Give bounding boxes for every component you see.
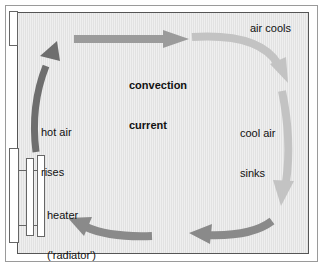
convection-diagram: air cools convection current cool air si… bbox=[0, 0, 325, 269]
label-convection-current: convection current bbox=[129, 52, 187, 159]
label-heater-line1: heater bbox=[47, 209, 96, 222]
label-cool-air-sinks: cool air sinks bbox=[240, 100, 275, 207]
cool-air-sinks-arrow bbox=[273, 91, 294, 206]
label-hot-air-line1: hot air bbox=[41, 126, 72, 139]
label-convection-current-line1: convection bbox=[129, 79, 187, 92]
label-cool-air-line1: cool air bbox=[240, 127, 275, 140]
label-heater-line2: ('radiator') bbox=[47, 249, 96, 262]
label-heater: heater ('radiator') bbox=[47, 182, 96, 269]
label-air-cools: air cools bbox=[250, 22, 291, 35]
label-cool-air-line2: sinks bbox=[240, 167, 275, 180]
label-convection-current-line2: current bbox=[129, 119, 187, 132]
air-cools-arrow bbox=[192, 36, 288, 83]
bottom-right-arrow bbox=[189, 221, 272, 244]
label-hot-air-line2: rises bbox=[41, 166, 72, 179]
label-air-cools-text: air cools bbox=[250, 22, 291, 34]
top-arrow bbox=[74, 30, 189, 48]
